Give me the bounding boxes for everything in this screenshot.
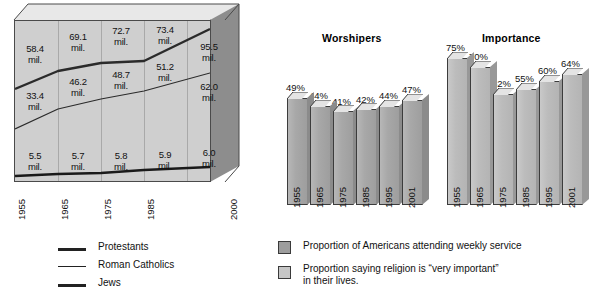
line-chart-legend: Protestants Roman Catholics Jews [58, 240, 238, 296]
legend-swatch-dark [278, 241, 291, 254]
importance-bar-1955 [447, 58, 468, 205]
legend-item-jews: Jews [58, 276, 238, 294]
importance-xtick-2001: 2001 [566, 187, 577, 208]
label-protestants-1985: 73.4mil. [148, 25, 182, 46]
worshipers-xtick-2001: 2001 [406, 187, 417, 208]
worshipers-xtick-1985: 1985 [360, 187, 371, 208]
label-catholics-1975: 48.7mil. [104, 70, 138, 91]
legend-text-importance-line1: Proportion saying religion is “very impo… [303, 263, 499, 275]
worshipers-xtick-1955: 1955 [291, 187, 302, 208]
xtick-1975: 1975 [102, 199, 113, 220]
importance-xtick-1965: 1965 [474, 187, 485, 208]
legend-label-catholics: Roman Catholics [98, 259, 174, 270]
legend-line-jews [58, 284, 86, 287]
importance-bar-1965 [470, 67, 491, 205]
worshipers-bar-chart: Worshipers 49% 44% 41% 42% 44% 47% 1955 … [278, 20, 443, 230]
label-protestants-2000: 95.5mil. [192, 42, 226, 63]
label-jews-1965: 5.7mil. [61, 151, 95, 172]
legend-item-protestants: Protestants [58, 240, 238, 258]
label-protestants-1975: 72.7mil. [104, 26, 138, 47]
label-catholics-1965: 46.2mil. [61, 77, 95, 98]
importance-xtick-1975: 1975 [497, 187, 508, 208]
xtick-2000: 2000 [228, 199, 239, 220]
label-catholics-1955: 33.4mil. [18, 91, 52, 112]
xtick-1965: 1965 [59, 199, 70, 220]
importance-xtick-1985: 1985 [520, 187, 531, 208]
worshipers-xtick-1995: 1995 [383, 187, 394, 208]
label-protestants-1955: 58.4mil. [18, 44, 52, 65]
legend-swatch-light [278, 266, 291, 279]
legend-line-catholics [58, 266, 86, 267]
label-catholics-1985: 51.2mil. [148, 62, 182, 83]
worshipers-xtick-1975: 1975 [337, 187, 348, 208]
label-jews-2000: 6.0mil. [192, 148, 226, 169]
legend-text-importance-line2: in their lives. [303, 275, 359, 287]
xtick-1985: 1985 [145, 199, 156, 220]
legend-label-protestants: Protestants [98, 241, 149, 252]
line-chart: 58.4mil. 69.1mil. 72.7mil. 73.4mil. 95.5… [0, 0, 250, 230]
worshipers-title: Worshipers [322, 32, 382, 44]
importance-xtick-1995: 1995 [543, 187, 554, 208]
label-jews-1975: 5.8mil. [104, 151, 138, 172]
bar-legend-item-importance: Proportion saying religion is “very impo… [278, 263, 588, 289]
legend-text-worshipers: Proportion of Americans attending weekly… [303, 240, 521, 252]
label-jews-1955: 5.5mil. [18, 151, 52, 172]
importance-xtick-1955: 1955 [451, 187, 462, 208]
legend-line-protestants [58, 248, 86, 251]
label-protestants-1965: 69.1mil. [61, 32, 95, 53]
label-jews-1985: 5.9mil. [148, 150, 182, 171]
importance-bar-2001 [562, 74, 583, 205]
importance-bar-chart: Importance 75% 70% 52% 55% 60% 64% 1955 … [437, 20, 592, 230]
xtick-1955: 1955 [16, 199, 27, 220]
label-catholics-2000: 62.0mil. [192, 82, 226, 103]
legend-label-jews: Jews [98, 277, 121, 288]
bar-chart-legend: Proportion of Americans attending weekly… [278, 240, 588, 292]
importance-title: Importance [482, 32, 541, 44]
worshipers-xtick-1965: 1965 [314, 187, 325, 208]
legend-item-catholics: Roman Catholics [58, 258, 238, 276]
bar-legend-item-worshipers: Proportion of Americans attending weekly… [278, 240, 588, 257]
